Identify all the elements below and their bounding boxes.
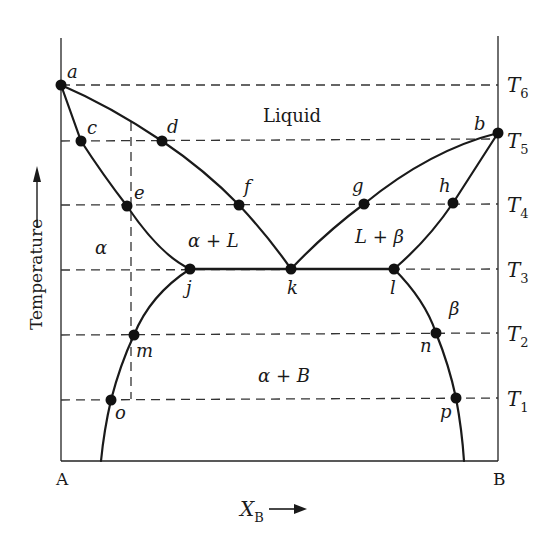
region-alpha-plus-liquid: α + L	[188, 230, 239, 251]
label-l: l	[390, 277, 396, 298]
point-h	[448, 198, 459, 209]
label-t5: T5	[507, 129, 529, 157]
region-alpha-plus-b: α + B	[258, 365, 310, 386]
point-e	[122, 201, 133, 212]
label-e: e	[134, 182, 145, 203]
point-p	[451, 393, 462, 404]
label-t6: T6	[507, 73, 529, 101]
point-f	[234, 200, 245, 211]
region-liquid: Liquid	[263, 105, 321, 126]
phase-diagram: a b c d e f g h j k l m n o p Liquid α α…	[0, 0, 559, 548]
solidus-right	[394, 133, 498, 269]
point-d	[157, 136, 168, 147]
solidus-left	[61, 85, 190, 269]
temperature-labels: T6 T5 T4 T3 T2 T1	[507, 73, 529, 415]
label-t2: T2	[507, 322, 529, 350]
region-liquid-plus-beta: L + β	[354, 226, 404, 247]
isotherm-t1	[61, 398, 498, 400]
label-t4: T4	[507, 193, 529, 221]
region-alpha: α	[95, 237, 107, 258]
liquidus-right	[291, 133, 498, 269]
label-h: h	[439, 175, 451, 196]
point-l	[389, 264, 400, 275]
endpoint-b: B	[493, 469, 506, 489]
point-k	[286, 264, 297, 275]
label-o: o	[115, 402, 126, 423]
isotherm-t5	[61, 139, 492, 141]
label-k: k	[287, 277, 298, 298]
y-axis-title: Temperature	[26, 219, 46, 330]
point-m	[129, 330, 140, 341]
point-a	[56, 80, 67, 91]
endpoint-a: A	[55, 469, 69, 489]
label-m: m	[136, 340, 153, 361]
label-p: p	[440, 401, 452, 422]
label-t1: T1	[507, 387, 529, 415]
solvus-alpha	[101, 269, 190, 461]
label-g: g	[352, 175, 364, 196]
label-f: f	[242, 176, 254, 197]
label-j: j	[182, 277, 192, 298]
point-j	[185, 264, 196, 275]
point-c	[76, 136, 87, 147]
point-b	[493, 128, 504, 139]
label-c: c	[87, 117, 97, 138]
x-axis-title: XB	[238, 497, 264, 525]
point-n	[431, 328, 442, 339]
label-b: b	[474, 113, 486, 134]
phase-boundaries	[61, 85, 498, 461]
x-axis-arrow-icon	[269, 504, 307, 514]
label-d: d	[167, 116, 179, 137]
label-t3: T3	[507, 258, 529, 286]
label-n: n	[420, 335, 432, 356]
phase-points	[56, 80, 504, 406]
region-beta: β	[448, 298, 459, 319]
label-a: a	[67, 61, 78, 82]
point-g	[359, 199, 370, 210]
